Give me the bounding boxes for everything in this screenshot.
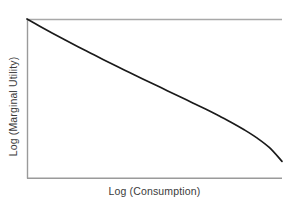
marginal-utility-curve (27, 19, 282, 161)
plot-area (0, 0, 289, 205)
x-axis-label: Log (Consumption) (27, 186, 282, 197)
chart-figure: Log (Marginal Utility) Log (Consumption) (0, 0, 289, 205)
y-axis-label-wrapper: Log (Marginal Utility) (8, 0, 22, 205)
y-axis-label: Log (Marginal Utility) (8, 0, 19, 205)
